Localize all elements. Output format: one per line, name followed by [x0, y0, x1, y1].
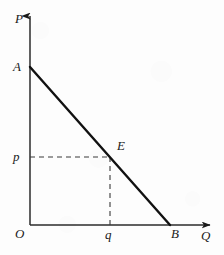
demand-line [30, 67, 170, 225]
quantity-level-label: q [105, 228, 112, 241]
demand-curve-figure: P Q A E B p q O [0, 0, 224, 255]
origin-label: O [15, 227, 24, 240]
point-b-label: B [171, 227, 179, 240]
price-level-label: p [13, 150, 20, 163]
point-e-label: E [117, 139, 125, 152]
point-a-label: A [13, 60, 21, 73]
figure-canvas [0, 0, 224, 255]
quantity-axis-label: Q [201, 229, 210, 242]
price-axis-label: P [15, 12, 23, 25]
